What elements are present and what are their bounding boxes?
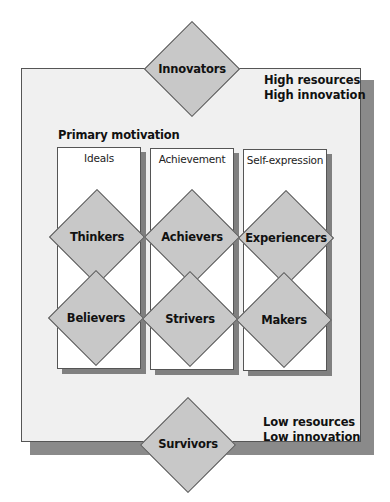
innovators-label: Innovators [137,62,247,76]
column-label: Self-expression [244,154,326,166]
high-innovation-text: High innovation [264,88,366,103]
survivors-label: Survivors [133,437,243,451]
high-resources-text: High resources [264,73,366,88]
low-innovation-text: Low innovation [263,430,360,445]
column-label: Ideals [58,152,140,164]
high-resources-label: High resources High innovation [264,73,366,103]
motivation-heading: Primary motivation [58,128,179,142]
low-resources-label: Low resources Low innovation [263,415,360,445]
makers-label: Makers [229,313,339,327]
thinkers-label: Thinkers [42,230,152,244]
low-resources-text: Low resources [263,415,360,430]
column-label: Achievement [151,153,233,165]
experiencers-label: Experiencers [231,231,341,245]
